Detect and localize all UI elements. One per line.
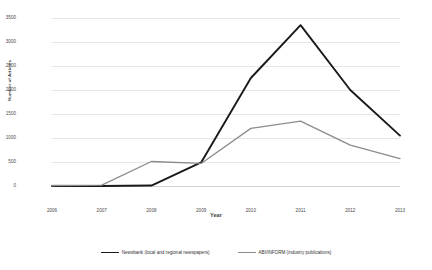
legend-swatch-icon: [101, 252, 119, 254]
y-axis-tick-label: 2000: [0, 87, 16, 92]
y-axis-tick-label: 1000: [0, 135, 16, 140]
legend-label: Newsbank (local and regional newspapers): [122, 250, 210, 255]
chart-legend: Newsbank (local and regional newspapers)…: [0, 250, 432, 255]
y-axis-tick-label: 2500: [0, 63, 16, 68]
legend-label: ABI/INFORM (industry publications): [259, 250, 332, 255]
y-axis-tick-label: 500: [0, 159, 16, 164]
x-axis-title: Year: [0, 212, 432, 218]
y-axis-title: Number of Articles: [7, 46, 12, 116]
series-lines: [52, 18, 400, 186]
legend-item[interactable]: ABI/INFORM (industry publications): [238, 250, 332, 255]
y-axis-tick-label: 3000: [0, 39, 16, 44]
legend-item[interactable]: Newsbank (local and regional newspapers): [101, 250, 210, 255]
plot-area: 0500100015002000250030003500 20062007200…: [52, 18, 400, 186]
series-line: [52, 121, 400, 185]
y-axis-tick-label: 1500: [0, 111, 16, 116]
series-line: [52, 25, 400, 186]
y-axis-tick-label: 0: [0, 183, 16, 188]
legend-swatch-icon: [238, 252, 256, 253]
y-axis-tick-label: 3500: [0, 15, 16, 20]
line-chart: Number of Articles 050010001500200025003…: [0, 0, 432, 270]
